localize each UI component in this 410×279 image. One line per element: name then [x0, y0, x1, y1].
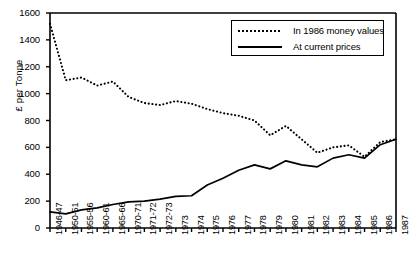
- chart-legend: In 1986 money values At current prices: [231, 20, 384, 56]
- legend-swatch-solid-icon: [238, 46, 282, 48]
- x-tick-label: 1965-66: [117, 203, 127, 235]
- x-tick-label: 1955-56: [85, 203, 95, 235]
- y-tick-label: 600: [2, 141, 40, 152]
- y-tick-label: 1000: [2, 88, 40, 99]
- x-tick-label: 1981: [306, 215, 316, 235]
- legend-swatch-dotted-icon: [238, 30, 282, 32]
- y-tick-label: 400: [2, 168, 40, 179]
- x-tick-label: 1979: [274, 215, 284, 235]
- x-tick-label: 1950-51: [70, 203, 80, 235]
- x-tick-label: 1971-72: [148, 203, 158, 235]
- x-tick-label: 1987: [400, 215, 410, 235]
- x-tick-label: 1976: [227, 215, 237, 235]
- legend-label-0: In 1986 money values: [293, 23, 384, 39]
- x-tick-label: 1972-73: [164, 203, 174, 235]
- legend-item-0: In 1986 money values: [238, 23, 380, 39]
- x-tick-label: 1977: [243, 215, 253, 235]
- x-tick-label: 1970-71: [133, 203, 143, 235]
- x-tick-label: 1946-47: [54, 203, 64, 235]
- y-tick-label: 200: [2, 195, 40, 206]
- x-tick-label: 1986: [384, 215, 394, 235]
- y-tick-label: 1200: [2, 61, 40, 72]
- x-tick-label: 1980: [290, 215, 300, 235]
- y-tick-label: 0: [2, 222, 40, 233]
- x-tick-label: 1982: [321, 215, 331, 235]
- x-tick-label: 1978: [258, 215, 268, 235]
- y-tick-label: 1600: [2, 7, 40, 18]
- x-tick-label: 1975: [211, 215, 221, 235]
- x-tick-label: 1960-61: [101, 203, 111, 235]
- x-tick-label: 1984: [353, 215, 363, 235]
- x-tick-label: 1985: [369, 215, 379, 235]
- y-tick-label: 800: [2, 115, 40, 126]
- y-tick-label: 1400: [2, 34, 40, 45]
- x-tick-label: 1974: [196, 215, 206, 235]
- x-tick-label: 1973: [180, 215, 190, 235]
- legend-label-1: At current prices: [293, 39, 360, 55]
- legend-item-1: At current prices: [238, 39, 380, 55]
- x-tick-label: 1983: [337, 215, 347, 235]
